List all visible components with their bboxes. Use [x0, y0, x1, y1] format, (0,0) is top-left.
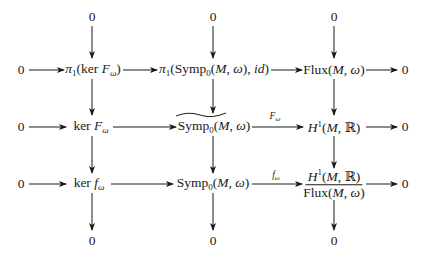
node-quotient: H1(M, ℝ) Flux(M, ω) — [301, 168, 366, 200]
node-H1: H1(M, ℝ) — [308, 120, 360, 135]
node-r2-left: 0 — [18, 120, 25, 134]
node-ker-f: ker fω — [74, 176, 105, 193]
node-r3-left: 0 — [18, 177, 25, 191]
node-r0-c3: 0 — [331, 10, 338, 24]
node-r4-c3: 0 — [331, 234, 338, 248]
node-symp-tilde: Symp0(M, ω) — [178, 119, 251, 136]
tilde-mark — [176, 113, 226, 117]
node-pi1-symp: π1(Symp0(M, ω), id) — [159, 62, 269, 79]
node-r4-c2: 0 — [210, 234, 217, 248]
node-r3-right: 0 — [402, 177, 409, 191]
node-symp0: Symp0(M, ω) — [177, 176, 250, 193]
arrow-label-F-omega: Fω — [270, 111, 281, 124]
node-r0-c2: 0 — [210, 10, 217, 24]
node-pi1-ker-F: π1(ker Fω) — [65, 62, 121, 79]
node-r2-right: 0 — [402, 120, 409, 134]
node-r1-right: 0 — [402, 63, 409, 77]
node-r1-left: 0 — [18, 63, 25, 77]
node-ker-F: ker Fω — [73, 119, 108, 136]
node-r4-c1: 0 — [89, 234, 96, 248]
node-flux: Flux(M, ω) — [303, 63, 364, 77]
arrow-label-f-omega: fω — [272, 170, 280, 183]
node-r0-c1: 0 — [89, 10, 96, 24]
commutative-diagram: 0 0 0 0 π1(ker Fω) π1(Symp0(M, ω), id) F… — [0, 0, 424, 258]
